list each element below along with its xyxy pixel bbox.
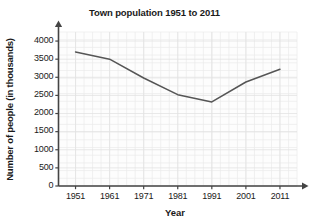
y-tick-label: 1000 (17, 144, 53, 154)
gridlines (59, 32, 298, 186)
y-tick-label: 0 (17, 180, 53, 190)
x-tick-label: 1961 (92, 191, 128, 201)
y-tick-label: 500 (17, 162, 53, 172)
x-tick-label: 1981 (160, 191, 196, 201)
y-tick-label: 2500 (17, 89, 53, 99)
x-tick-label: 2011 (262, 191, 298, 201)
x-tick-label: 1951 (58, 191, 94, 201)
x-tick-label: 1991 (194, 191, 230, 201)
y-tick-label: 4000 (17, 35, 53, 45)
y-tick-label: 3500 (17, 53, 53, 63)
y-tick-label: 2000 (17, 107, 53, 117)
y-tick-label: 3000 (17, 71, 53, 81)
x-tick-label: 2001 (228, 191, 264, 201)
y-tick-label: 1500 (17, 125, 53, 135)
x-tick-label: 1971 (126, 191, 162, 201)
line-chart: Town population 1951 to 2011 Number of p… (0, 0, 309, 224)
